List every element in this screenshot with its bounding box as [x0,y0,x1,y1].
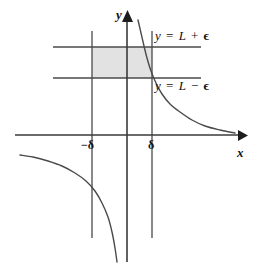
lower-band-limit: L [179,78,186,93]
tick-label-neg-delta: −δ [81,139,94,151]
y-axis-label: y [116,8,122,21]
upper-band-limit: L [179,28,186,43]
lower-band-label: y = L − ϵ [155,79,209,92]
limit-figure: y x y = L + ϵ y = L − ϵ −δ δ [0,0,264,271]
upper-band-lhs: y [155,28,161,43]
upper-band-label: y = L + ϵ [155,29,209,42]
lower-band-lhs: y [155,78,161,93]
x-axis-label: x [237,146,244,159]
curve-lower-left [20,155,117,262]
upper-band-epsilon: ϵ [203,28,208,43]
x-axis-arrow-icon [238,130,248,141]
lower-band-equals: = [164,78,175,93]
shaded-band-rect [92,47,152,78]
upper-band-equals: = [164,28,175,43]
y-axis-arrow-icon [122,10,133,22]
figure-canvas [0,0,264,271]
lower-band-epsilon: ϵ [203,78,208,93]
upper-band-operator: + [189,28,200,43]
lower-band-operator: − [189,78,200,93]
tick-label-pos-delta: δ [148,139,154,151]
